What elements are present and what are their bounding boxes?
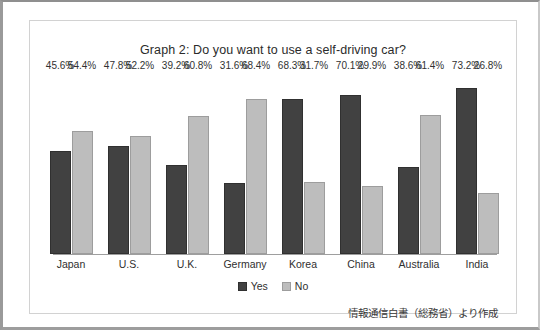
bar-slot: 31.7% bbox=[304, 73, 325, 254]
bar-no: 52.2% bbox=[130, 136, 151, 254]
bar-slot: 45.6% bbox=[50, 73, 71, 254]
bar-yes: 68.3% bbox=[282, 99, 303, 254]
bar-slot: 39.2% bbox=[166, 73, 187, 254]
x-axis-label: U.S. bbox=[100, 258, 158, 270]
bar-group: 70.1%29.9% bbox=[332, 73, 390, 254]
legend-item-yes[interactable]: Yes bbox=[238, 280, 268, 292]
bar-group: 47.8%52.2% bbox=[100, 73, 158, 254]
x-axis-label: U.K. bbox=[158, 258, 216, 270]
bar-value-label: 26.8% bbox=[474, 60, 502, 71]
bar-value-label: 61.4% bbox=[416, 60, 444, 71]
bar-value-label: 60.8% bbox=[184, 60, 212, 71]
x-axis-label: Australia bbox=[390, 258, 448, 270]
bar-yes: 73.2% bbox=[456, 88, 477, 254]
light-square-swatch bbox=[282, 282, 291, 291]
bar-slot: 70.1% bbox=[340, 73, 361, 254]
bar-no: 54.4% bbox=[72, 131, 93, 254]
x-axis-label: China bbox=[332, 258, 390, 270]
bar-value-label: 31.7% bbox=[300, 60, 328, 71]
bar-no: 60.8% bbox=[188, 116, 209, 254]
x-axis-labels: JapanU.S.U.K.GermanyKoreaChinaAustraliaI… bbox=[42, 258, 506, 270]
bar-slot: 68.3% bbox=[282, 73, 303, 254]
bar-groups: 45.6%54.4%47.8%52.2%39.2%60.8%31.6%68.4%… bbox=[42, 73, 506, 254]
x-axis-label: Japan bbox=[42, 258, 100, 270]
bar-slot: 26.8% bbox=[478, 73, 499, 254]
bar-value-label: 68.4% bbox=[242, 60, 270, 71]
chart-title: Graph 2: Do you want to use a self-drivi… bbox=[30, 43, 516, 57]
bar-group: 68.3%31.7% bbox=[274, 73, 332, 254]
bar-slot: 61.4% bbox=[420, 73, 441, 254]
bar-slot: 29.9% bbox=[362, 73, 383, 254]
bar-value-label: 52.2% bbox=[126, 60, 154, 71]
bar-slot: 54.4% bbox=[72, 73, 93, 254]
bar-yes: 70.1% bbox=[340, 95, 361, 254]
x-axis-label: Germany bbox=[216, 258, 274, 270]
bar-yes: 39.2% bbox=[166, 165, 187, 254]
x-axis-label: India bbox=[448, 258, 506, 270]
bar-group: 45.6%54.4% bbox=[42, 73, 100, 254]
x-axis-label: Korea bbox=[274, 258, 332, 270]
bar-yes: 38.6% bbox=[398, 167, 419, 254]
bar-slot: 52.2% bbox=[130, 73, 151, 254]
bar-group: 39.2%60.8% bbox=[158, 73, 216, 254]
legend-label: Yes bbox=[251, 280, 268, 292]
legend-label: No bbox=[295, 280, 308, 292]
bar-slot: 60.8% bbox=[188, 73, 209, 254]
bar-no: 61.4% bbox=[420, 115, 441, 254]
bar-no: 26.8% bbox=[478, 193, 499, 254]
bar-value-label: 54.4% bbox=[68, 60, 96, 71]
bar-slot: 73.2% bbox=[456, 73, 477, 254]
bar-slot: 31.6% bbox=[224, 73, 245, 254]
chart-legend: YesNo bbox=[30, 280, 516, 292]
plot-area: 45.6%54.4%47.8%52.2%39.2%60.8%31.6%68.4%… bbox=[42, 73, 506, 255]
scanned-page: Graph 2: Do you want to use a self-drivi… bbox=[0, 0, 540, 330]
bar-slot: 68.4% bbox=[246, 73, 267, 254]
chart-container: Graph 2: Do you want to use a self-drivi… bbox=[29, 20, 517, 314]
source-note: 情報通信白書（総務省）より作成 bbox=[348, 305, 498, 320]
dark-square-swatch bbox=[238, 282, 247, 291]
bar-yes: 45.6% bbox=[50, 151, 71, 254]
x-axis-line bbox=[53, 254, 497, 255]
bar-group: 73.2%26.8% bbox=[448, 73, 506, 254]
bar-value-label: 29.9% bbox=[358, 60, 386, 71]
bar-no: 31.7% bbox=[304, 182, 325, 254]
bar-slot: 47.8% bbox=[108, 73, 129, 254]
legend-item-no[interactable]: No bbox=[282, 280, 308, 292]
bar-group: 38.6%61.4% bbox=[390, 73, 448, 254]
bar-group: 31.6%68.4% bbox=[216, 73, 274, 254]
bar-no: 68.4% bbox=[246, 99, 267, 254]
bar-slot: 38.6% bbox=[398, 73, 419, 254]
bar-no: 29.9% bbox=[362, 186, 383, 254]
bar-yes: 31.6% bbox=[224, 183, 245, 254]
bar-yes: 47.8% bbox=[108, 146, 129, 254]
